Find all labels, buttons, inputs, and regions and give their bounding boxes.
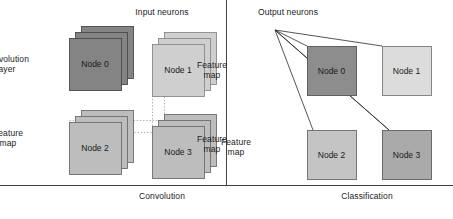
conv-stack-node0: Node 0: [70, 27, 134, 91]
conv-stack-group: Node 0Node 1Node 2Node 3: [70, 27, 217, 179]
output-neurons-label: Output neurons: [228, 7, 348, 17]
diagram-root: Node 0Node 1Node 2Node 3 Node 0Node 1Nod…: [0, 0, 453, 219]
conv-stack-node2-label: Node 2: [81, 143, 109, 153]
feature-map-bottom-left-label: Feature map: [0, 128, 38, 148]
conv-stack-node2: Node 2: [70, 111, 134, 175]
diagram-canvas: Node 0Node 1Node 2Node 3 Node 0Node 1Nod…: [0, 0, 453, 219]
section-caption-classification: Classification: [307, 191, 427, 201]
section-caption-convolution: Convolution: [102, 191, 222, 201]
class-box-node1-label: Node 1: [393, 66, 421, 76]
feature-map-top-right-label: Feature map: [182, 60, 242, 80]
class-box-node0-label: Node 0: [318, 66, 346, 76]
convolution-layer-label: Convolution layer: [0, 54, 36, 74]
class-box-node3-label: Node 3: [393, 150, 421, 160]
class-box-node2-label: Node 2: [318, 150, 346, 160]
conv-stack-node0-label: Node 0: [81, 59, 109, 69]
feature-map-classification-label: Feature map: [206, 137, 266, 157]
input-neurons-label: Input neurons: [102, 7, 222, 17]
